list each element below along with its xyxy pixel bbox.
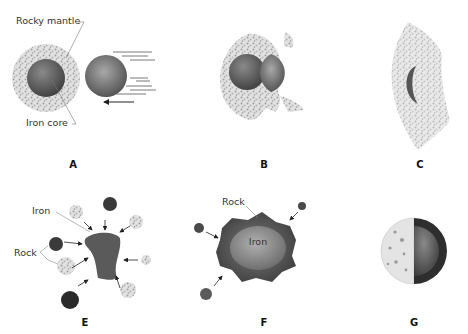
panel-label-f: F xyxy=(261,317,268,328)
rock-fragment-light xyxy=(120,282,136,298)
panel-label-b: B xyxy=(260,159,268,170)
panel-b: B xyxy=(220,32,304,170)
label-rock: Rock xyxy=(222,196,245,207)
panel-a: Rocky mantle Iron core A xyxy=(12,15,156,170)
iron-core xyxy=(230,226,286,270)
diagram-canvas: Rocky mantle Iron core A B C xyxy=(0,0,468,334)
rock-fragment-light xyxy=(69,205,83,219)
label-iron-core: Iron core xyxy=(26,117,68,128)
rock-fragment-dark xyxy=(103,197,117,211)
label-iron: Iron xyxy=(32,205,50,216)
panel-label-a: A xyxy=(69,159,77,170)
leader-rocky-mantle xyxy=(66,22,84,58)
target-core xyxy=(229,54,265,90)
panel-c: C xyxy=(392,22,450,170)
rock-fragment xyxy=(200,288,212,300)
label-rock: Rock xyxy=(14,247,37,258)
panel-g: G xyxy=(381,218,447,328)
panel-label-e: E xyxy=(82,317,89,328)
rock-fragment-dark xyxy=(61,291,79,309)
leader-rock xyxy=(246,206,258,218)
impactor xyxy=(85,55,127,97)
rock-fragment-light xyxy=(57,257,75,275)
rock-fragment-light xyxy=(141,255,151,265)
panel-label-c: C xyxy=(416,159,423,170)
debris-fragment xyxy=(280,96,304,112)
vapor-plume xyxy=(392,22,450,150)
rock-fragment-light xyxy=(129,215,143,229)
rock-fragment-dark xyxy=(49,237,63,251)
label-iron: Iron xyxy=(249,236,267,247)
iron-core xyxy=(27,59,65,97)
crust-face xyxy=(381,218,414,284)
debris-fragment xyxy=(284,32,293,48)
panel-e: Iron Rock E xyxy=(14,197,151,328)
rock-fragment xyxy=(194,223,204,233)
iron-mass xyxy=(85,233,121,280)
rock-fragment xyxy=(298,202,306,210)
panel-f: Iron Rock F xyxy=(194,196,306,328)
label-rocky-mantle: Rocky mantle xyxy=(16,15,80,26)
panel-label-g: G xyxy=(410,317,418,328)
